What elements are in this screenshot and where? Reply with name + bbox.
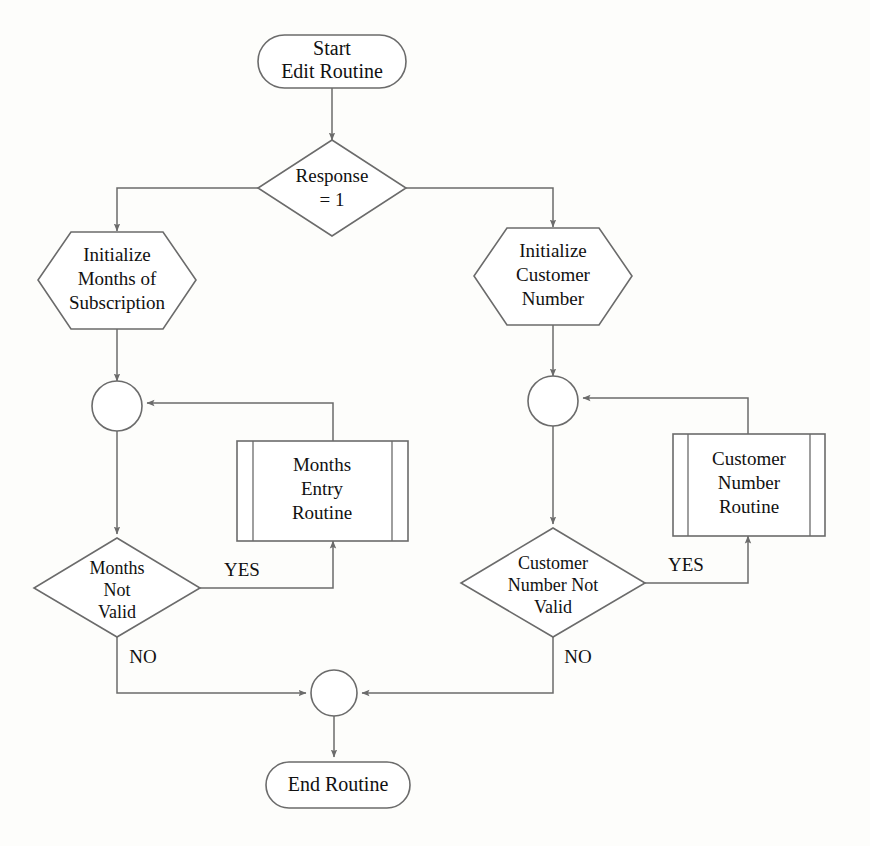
node-months-junction[interactable]	[92, 381, 142, 431]
months-entry-routine-line3: Routine	[292, 502, 352, 523]
months-not-valid-line2: Not	[104, 580, 131, 600]
start-label-line2: Edit Routine	[281, 60, 383, 82]
months-entry-routine-line1: Months	[293, 454, 351, 475]
init-customer-line2: Customer	[516, 264, 591, 285]
flowchart-svg: Start Edit Routine Response = 1 Initiali…	[0, 0, 870, 846]
end-junction-shape	[311, 670, 357, 716]
customer-number-routine-line2: Number	[718, 472, 781, 493]
edge-customer-routine-to-junction	[583, 398, 748, 434]
months-junction-shape	[92, 381, 142, 431]
node-init-customer[interactable]: Initialize Customer Number	[474, 228, 632, 325]
response-decision-line2: = 1	[320, 189, 345, 210]
customer-number-not-valid-line3: Valid	[534, 597, 572, 617]
customer-junction-shape	[528, 376, 578, 426]
init-months-line1: Initialize	[83, 244, 151, 265]
months-entry-routine-line2: Entry	[301, 478, 344, 499]
node-months-entry-routine[interactable]: Months Entry Routine	[237, 441, 408, 541]
months-not-valid-line1: Months	[89, 558, 144, 578]
flowchart-canvas: Start Edit Routine Response = 1 Initiali…	[0, 0, 870, 846]
edges-layer	[117, 88, 748, 757]
edge-response-to-init-customer	[406, 188, 553, 227]
customer-number-not-valid-line2: Number Not	[508, 575, 598, 595]
response-decision-line1: Response	[296, 165, 369, 186]
node-customer-number-not-valid[interactable]: Customer Number Not Valid	[461, 528, 645, 637]
node-end-junction[interactable]	[311, 670, 357, 716]
edge-months-yes-to-routine	[200, 541, 333, 588]
init-customer-line3: Number	[522, 288, 585, 309]
node-months-not-valid[interactable]: Months Not Valid	[34, 538, 200, 637]
node-response-decision[interactable]: Response = 1	[258, 140, 406, 236]
customer-number-routine-line1: Customer	[712, 448, 787, 469]
end-label: End Routine	[288, 773, 389, 795]
node-start[interactable]: Start Edit Routine	[258, 35, 406, 88]
edge-customer-no-to-end-junction	[362, 637, 553, 693]
months-not-valid-line3: Valid	[98, 602, 136, 622]
edge-response-to-init-months	[117, 188, 258, 231]
node-init-months[interactable]: Initialize Months of Subscription	[38, 232, 196, 329]
customer-number-not-valid-line1: Customer	[518, 553, 588, 573]
init-months-line2: Months of	[78, 268, 157, 289]
customer-number-routine-line3: Routine	[719, 496, 779, 517]
node-customer-number-routine[interactable]: Customer Number Routine	[673, 434, 825, 536]
init-months-line3: Subscription	[69, 292, 166, 313]
label-customer-no: NO	[564, 646, 591, 667]
node-end[interactable]: End Routine	[266, 762, 410, 808]
node-customer-junction[interactable]	[528, 376, 578, 426]
edge-months-routine-to-junction	[147, 403, 333, 441]
response-decision-shape	[258, 140, 406, 236]
init-customer-line1: Initialize	[519, 240, 587, 261]
label-customer-yes: YES	[668, 554, 704, 575]
start-label-line1: Start	[313, 37, 351, 59]
label-months-yes: YES	[224, 559, 260, 580]
label-months-no: NO	[129, 646, 156, 667]
